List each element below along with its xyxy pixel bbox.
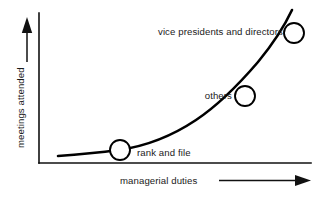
data-label-vice-presidents: vice presidents and directors bbox=[158, 26, 283, 37]
chart-canvas: meetings attended rank and file others v… bbox=[0, 0, 322, 197]
data-point-vice-presidents bbox=[284, 23, 304, 43]
x-axis-title: managerial duties bbox=[120, 175, 198, 186]
data-label-others: others bbox=[205, 90, 232, 101]
data-point-others bbox=[235, 86, 255, 106]
chart-container: meetings attended rank and file others v… bbox=[0, 0, 322, 197]
y-axis-title: meetings attended bbox=[15, 67, 26, 148]
data-label-rank-and-file: rank and file bbox=[137, 147, 191, 158]
y-axis-arrow-head-icon bbox=[22, 17, 32, 33]
x-axis-arrow-head-icon bbox=[295, 175, 311, 186]
data-point-rank-and-file bbox=[110, 140, 130, 160]
